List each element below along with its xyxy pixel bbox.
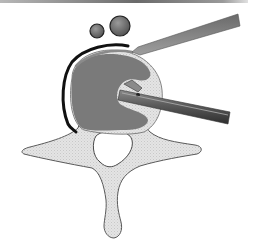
illustration-canvas (0, 0, 254, 252)
posterior-elements (22, 122, 201, 238)
small-vessel-icon (90, 24, 104, 38)
vertebra-illustration: Axial view of vertebra with surgical ins… (0, 0, 254, 252)
top-border-rule (0, 0, 248, 3)
retractor-instrument (132, 14, 240, 55)
large-vessel-icon (110, 16, 130, 36)
